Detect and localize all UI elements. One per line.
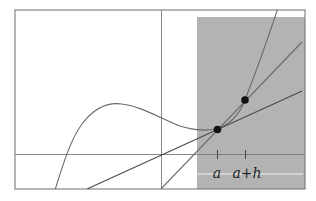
label-a-plus-h: a+h [232,165,261,181]
secant-tangent-diagram: a a+h [0,0,316,201]
label-a: a [213,165,221,181]
diagram-canvas: a a+h [0,0,316,201]
point-a-plus-h [241,96,249,104]
point-a [214,126,222,134]
shaded-region [197,17,305,189]
